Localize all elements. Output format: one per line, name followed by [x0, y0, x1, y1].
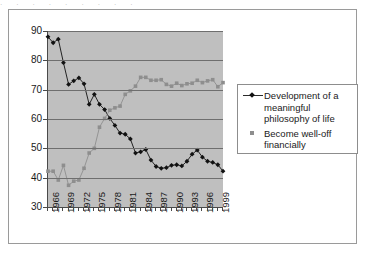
x-axis-tick-mark [181, 208, 182, 211]
y-axis-tick-mark [43, 178, 47, 179]
data-point [185, 82, 189, 86]
x-axis-tick-mark [88, 208, 89, 211]
data-point [159, 166, 164, 171]
data-point [77, 178, 81, 182]
x-axis-tick-mark [129, 208, 130, 211]
data-point [169, 163, 174, 168]
gridline [48, 31, 223, 32]
legend-label-philosophy: Development of a meaningful philosophy o… [264, 90, 353, 125]
figure-frame: Development of a meaningful philosophy o… [8, 9, 357, 244]
data-point [46, 169, 50, 173]
y-axis-tick-label: 80 [20, 55, 42, 65]
data-point [165, 83, 169, 87]
data-point [92, 92, 97, 97]
x-axis-tick-mark [155, 208, 156, 211]
data-point [118, 104, 122, 108]
y-axis-tick-mark [43, 31, 47, 32]
data-point [87, 102, 92, 107]
data-point [134, 84, 138, 88]
y-axis-tick-mark [43, 60, 47, 61]
data-point [98, 125, 102, 129]
data-point [195, 78, 199, 82]
y-axis-tick-mark [43, 119, 47, 120]
data-point [201, 81, 205, 85]
x-axis-tick-mark [212, 208, 213, 211]
chart-legend: Development of a meaningful philosophy o… [237, 84, 358, 154]
x-axis-tick-mark [165, 208, 166, 211]
x-axis-tick-mark [68, 208, 69, 211]
data-point [67, 183, 71, 187]
x-axis-tick-mark [176, 208, 177, 211]
plot-area [47, 31, 223, 208]
data-point [108, 108, 112, 112]
x-axis-tick-mark [171, 208, 172, 211]
data-point [87, 151, 91, 155]
y-axis-tick-mark [43, 148, 47, 149]
x-axis-tick-mark [207, 208, 208, 211]
data-point [210, 160, 215, 165]
series-line-wealth [48, 77, 223, 185]
data-point [159, 78, 163, 82]
data-point [149, 78, 153, 82]
x-axis-tick-mark [114, 208, 115, 211]
x-axis-tick-mark [186, 208, 187, 211]
data-point [118, 131, 123, 136]
x-axis-tick-mark [191, 208, 192, 211]
data-point [133, 151, 138, 156]
data-point [164, 165, 169, 170]
x-axis-tick-mark [150, 208, 151, 211]
y-axis-tick-label: 90 [20, 26, 42, 36]
data-point [180, 84, 184, 88]
x-axis-tick-mark [160, 208, 161, 211]
data-point [123, 93, 127, 97]
y-axis-tick-label: 60 [20, 114, 42, 124]
x-axis-tick-mark [124, 208, 125, 211]
data-point [51, 169, 55, 173]
data-point [206, 79, 210, 83]
y-axis-tick-label: 40 [20, 173, 42, 183]
x-axis-tick-mark [93, 208, 94, 211]
data-point [56, 178, 60, 182]
data-point [82, 166, 86, 170]
x-axis-tick-mark [52, 208, 53, 211]
data-point [72, 179, 76, 183]
data-point [211, 78, 215, 82]
data-point [170, 84, 174, 88]
data-point [190, 81, 194, 85]
x-axis-tick-mark [145, 208, 146, 211]
data-point [175, 81, 179, 85]
top-edge-text-sliver: · · · · · · · · · [0, 0, 367, 7]
x-axis-tick-mark [201, 208, 202, 211]
data-point [144, 76, 148, 80]
gridline [48, 90, 223, 91]
data-point [62, 164, 66, 168]
data-point [113, 106, 117, 110]
gridline [48, 119, 223, 120]
x-axis-tick-mark [135, 208, 136, 211]
x-axis-tick-mark [104, 208, 105, 211]
x-axis-tick-mark [78, 208, 79, 211]
y-axis-tick-mark [43, 90, 47, 91]
data-point [216, 85, 220, 89]
data-point [139, 76, 143, 80]
gridline [48, 148, 223, 149]
x-axis-tick-mark [140, 208, 141, 211]
x-axis-tick-mark [222, 208, 223, 211]
square-icon [242, 128, 264, 140]
x-axis-tick-mark [83, 208, 84, 211]
y-axis-tick-label: 70 [20, 85, 42, 95]
y-axis-tick-label: 30 [20, 202, 42, 212]
data-point [221, 81, 225, 85]
x-axis-tick-mark [47, 208, 48, 211]
data-point [138, 149, 143, 154]
line-diamond-icon [242, 90, 264, 102]
x-axis-tick-mark [217, 208, 218, 211]
data-point [174, 162, 179, 167]
x-axis-tick-mark [73, 208, 74, 211]
x-axis-tick-mark [62, 208, 63, 211]
x-axis-tick-mark [119, 208, 120, 211]
x-axis-tick-mark [98, 208, 99, 211]
x-axis-tick-mark [57, 208, 58, 211]
data-point [154, 78, 158, 82]
gridline [48, 178, 223, 179]
